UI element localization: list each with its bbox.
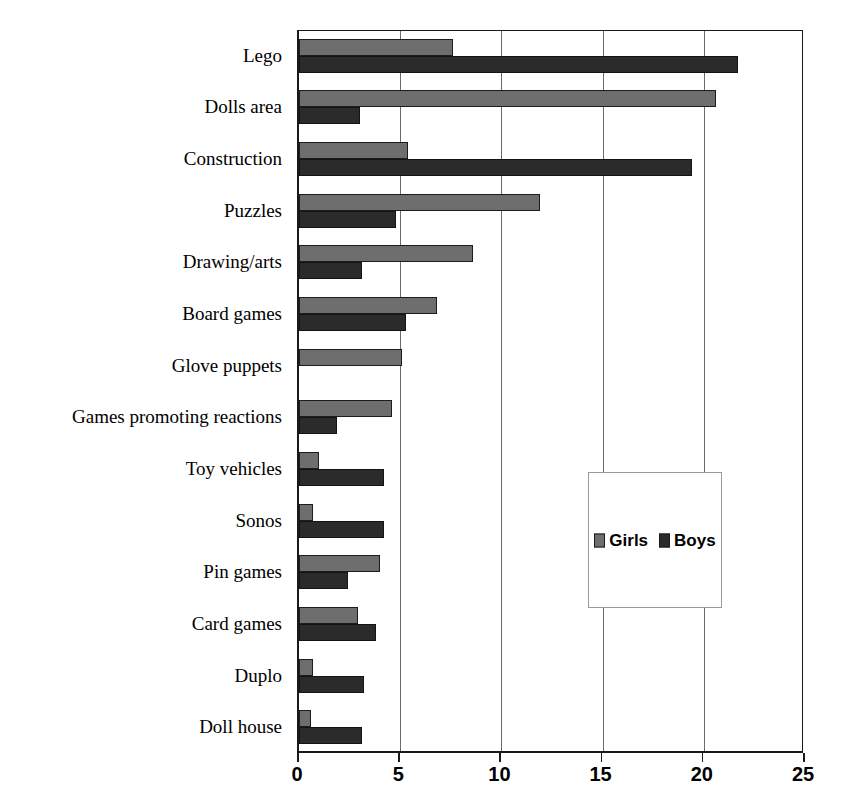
- bar-chart: LegoDolls areaConstructionPuzzlesDrawing…: [0, 0, 861, 812]
- legend-label: Girls: [609, 532, 648, 549]
- bar-boys: [299, 211, 396, 228]
- bar-girls: [299, 400, 392, 417]
- bar-group: [299, 186, 802, 238]
- x-tick-label: 25: [792, 764, 814, 784]
- bar-group: [299, 496, 802, 548]
- category-label: Sonos: [236, 511, 282, 530]
- bar-boys: [299, 314, 406, 331]
- x-tick-mark: [702, 753, 704, 762]
- bar-boys: [299, 469, 384, 486]
- bar-boys: [299, 521, 384, 538]
- category-label: Board games: [182, 304, 282, 323]
- bar-group: [299, 289, 802, 341]
- bar-group: [299, 238, 802, 290]
- bar-group: [299, 599, 802, 651]
- bar-boys: [299, 727, 362, 744]
- legend-item-girls: Girls: [594, 532, 648, 549]
- category-label: Toy vehicles: [186, 459, 282, 478]
- bar-girls: [299, 142, 408, 159]
- bar-girls: [299, 349, 402, 366]
- bar-girls: [299, 659, 313, 676]
- bar-girls: [299, 39, 453, 56]
- bar-girls: [299, 245, 473, 262]
- category-label: Pin games: [203, 562, 282, 581]
- bar-group: [299, 393, 802, 445]
- bar-group: [299, 547, 802, 599]
- bar-boys: [299, 572, 348, 589]
- bar-boys: [299, 107, 360, 124]
- category-label: Puzzles: [224, 201, 282, 220]
- category-label: Glove puppets: [172, 356, 282, 375]
- bar-boys: [299, 159, 692, 176]
- category-label: Duplo: [235, 666, 283, 685]
- x-tick-mark: [297, 753, 299, 762]
- category-axis-labels: LegoDolls areaConstructionPuzzlesDrawing…: [0, 30, 290, 753]
- bar-girls: [299, 504, 313, 521]
- x-tick-mark: [398, 753, 400, 762]
- bar-boys: [299, 417, 337, 434]
- x-tick-label: 20: [691, 764, 713, 784]
- x-tick-label: 10: [488, 764, 510, 784]
- x-tick-label: 5: [393, 764, 404, 784]
- bar-girls: [299, 297, 437, 314]
- bar-boys: [299, 56, 738, 73]
- x-tick-mark: [499, 753, 501, 762]
- legend-label: Boys: [674, 532, 716, 549]
- bar-group: [299, 341, 802, 393]
- x-tick-mark: [803, 753, 805, 762]
- plot-area: [297, 30, 803, 753]
- category-label: Card games: [192, 614, 282, 633]
- x-axis: 0510152025: [297, 753, 803, 793]
- bar-boys: [299, 676, 364, 693]
- bar-group: [299, 83, 802, 135]
- bar-group: [299, 31, 802, 83]
- bar-rows: [299, 31, 802, 751]
- bar-group: [299, 651, 802, 703]
- category-label: Games promoting reactions: [72, 407, 282, 426]
- bar-boys: [299, 624, 376, 641]
- category-label: Lego: [243, 46, 282, 65]
- legend-item-boys: Boys: [659, 532, 716, 549]
- bar-group: [299, 702, 802, 754]
- bar-group: [299, 134, 802, 186]
- bar-girls: [299, 452, 319, 469]
- legend-entries: GirlsBoys: [589, 532, 721, 549]
- boys-swatch: [659, 533, 670, 547]
- bar-boys: [299, 262, 362, 279]
- bar-girls: [299, 710, 311, 727]
- x-tick-mark: [601, 753, 603, 762]
- bar-girls: [299, 607, 358, 624]
- bar-girls: [299, 194, 540, 211]
- bar-group: [299, 444, 802, 496]
- category-label: Drawing/arts: [183, 252, 282, 271]
- bar-girls: [299, 90, 716, 107]
- category-label: Construction: [184, 149, 282, 168]
- category-label: Doll house: [199, 717, 282, 736]
- legend: GirlsBoys: [588, 472, 722, 608]
- x-tick-label: 0: [291, 764, 302, 784]
- category-label: Dolls area: [204, 97, 282, 116]
- x-tick-label: 15: [589, 764, 611, 784]
- bar-girls: [299, 555, 380, 572]
- girls-swatch: [594, 533, 605, 547]
